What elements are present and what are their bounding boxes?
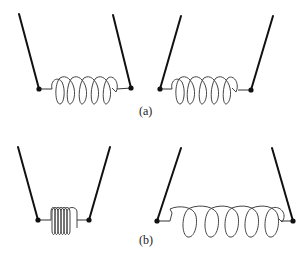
support-rod bbox=[157, 148, 181, 221]
support-rod bbox=[18, 147, 38, 220]
spring-diagram bbox=[0, 0, 307, 265]
panel-a-right bbox=[157, 16, 273, 104]
support-rod bbox=[89, 147, 110, 220]
panel-b-right bbox=[154, 148, 295, 237]
spring-a-right bbox=[172, 77, 238, 104]
support-rod bbox=[251, 16, 273, 90]
attachment-point bbox=[36, 86, 41, 91]
support-rod bbox=[160, 16, 181, 89]
spring-b-right bbox=[170, 206, 284, 237]
panel-label-a: (a) bbox=[139, 104, 152, 119]
attachment-point bbox=[86, 217, 91, 222]
support-rod bbox=[113, 15, 131, 88]
support-rod bbox=[19, 14, 39, 89]
attachment-point bbox=[290, 218, 295, 223]
attachment-point bbox=[248, 87, 253, 92]
panel-label-b: (b) bbox=[139, 233, 153, 248]
panel-a-left bbox=[19, 14, 134, 104]
panel-b-left bbox=[18, 147, 110, 235]
attachment-point bbox=[35, 217, 40, 222]
spring-b-left bbox=[51, 208, 77, 235]
attachment-point bbox=[154, 218, 159, 223]
spring-a-left bbox=[52, 77, 118, 104]
attachment-point bbox=[157, 86, 162, 91]
attachment-point bbox=[128, 85, 133, 90]
